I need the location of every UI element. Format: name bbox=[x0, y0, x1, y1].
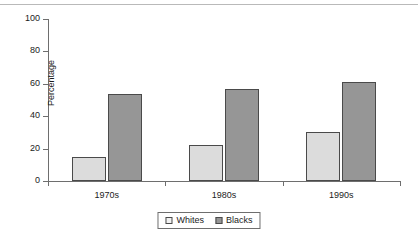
bar-whites-1970s bbox=[72, 157, 106, 181]
legend-item-whites[interactable]: Whites bbox=[165, 216, 204, 225]
y-tick-label-text: 0 bbox=[12, 176, 40, 185]
bar-whites-1990s bbox=[306, 132, 340, 181]
top-rule bbox=[0, 4, 418, 5]
x-tick-mark bbox=[283, 181, 284, 186]
legend-swatch-blacks-icon bbox=[215, 217, 222, 224]
y-tick-label: 60 bbox=[8, 79, 40, 89]
x-category-label-1990s: 1990s bbox=[311, 190, 371, 200]
y-tick-label-text: 100 bbox=[12, 14, 40, 23]
y-tick-label: 80 bbox=[8, 46, 40, 56]
legend-label-blacks: Blacks bbox=[226, 216, 253, 225]
y-tick-label-text: 40 bbox=[12, 111, 40, 120]
x-tick-mark bbox=[400, 181, 401, 186]
x-category-label-1980s: 1980s bbox=[194, 190, 254, 200]
legend-label-whites: Whites bbox=[176, 216, 204, 225]
bar-blacks-1970s bbox=[108, 94, 142, 181]
legend-item-blacks[interactable]: Blacks bbox=[215, 216, 253, 225]
bar-blacks-1990s bbox=[342, 82, 376, 181]
bar-blacks-1980s bbox=[225, 89, 259, 181]
y-tick-label: 40 bbox=[8, 111, 40, 121]
y-tick-label: 0 bbox=[8, 176, 40, 186]
y-tick-label-text: 60 bbox=[12, 79, 40, 88]
y-tick-label-text: 80 bbox=[12, 46, 40, 55]
y-tick-label: 100 bbox=[8, 14, 40, 24]
y-tick-label-text: 20 bbox=[12, 144, 40, 153]
legend-swatch-whites-icon bbox=[165, 217, 172, 224]
x-category-label-1970s: 1970s bbox=[77, 190, 137, 200]
chart-figure: Percentage 020406080100 1970s1980s1990s … bbox=[0, 0, 418, 242]
x-tick-mark bbox=[48, 181, 49, 186]
bar-whites-1980s bbox=[189, 145, 223, 181]
x-tick-mark bbox=[165, 181, 166, 186]
legend: Whites Blacks bbox=[157, 212, 260, 229]
x-axis-line bbox=[48, 181, 400, 182]
plot-area bbox=[48, 19, 400, 181]
y-tick-label: 20 bbox=[8, 144, 40, 154]
